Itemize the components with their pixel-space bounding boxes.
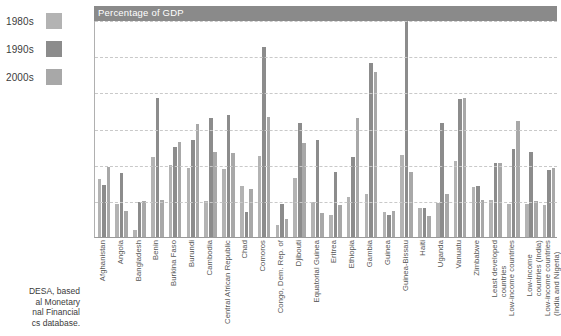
bar (173, 147, 177, 237)
bar (543, 205, 547, 237)
x-axis-labels: AfghanistanAngolaBangladeshBeninBurkina … (94, 240, 557, 336)
bar (440, 123, 444, 237)
chart-title: Percentage of GDP (98, 7, 184, 18)
x-tick-label: Eritrea (330, 240, 339, 263)
bar (445, 194, 449, 237)
bar (245, 212, 249, 237)
bar (102, 185, 106, 237)
bar (258, 156, 262, 237)
x-tick-label: Low-income countries (India) (526, 240, 543, 296)
bar (196, 124, 200, 237)
x-tick-label: Uganda (437, 240, 446, 267)
gridline (95, 202, 557, 203)
x-tick-label: Gambia (366, 240, 375, 267)
x-tick-label: Djibouti (295, 240, 304, 266)
bar (222, 169, 226, 237)
bar (481, 200, 485, 237)
legend-swatch-1990s (46, 41, 62, 57)
bar (204, 201, 208, 237)
bar (507, 204, 511, 237)
bar (334, 172, 338, 237)
bar (387, 215, 391, 237)
bar (280, 204, 284, 237)
x-tick-label: Comoros (259, 240, 268, 272)
source-line: nal Financial (0, 307, 80, 318)
bar (427, 216, 431, 237)
bar (329, 215, 333, 237)
bar (374, 72, 378, 237)
bar (249, 189, 253, 237)
chart-legend: 1980s 1990s 2000s (6, 10, 68, 94)
x-tick-label: Cambodia (206, 240, 215, 275)
x-tick-label: Benin (152, 240, 161, 260)
bar (423, 208, 427, 237)
legend-label: 1980s (6, 16, 42, 27)
bar (293, 178, 297, 237)
bar (392, 211, 396, 237)
x-tick-label: Afghanistan (99, 240, 108, 281)
bar (547, 170, 551, 237)
bar (267, 117, 271, 237)
gridline (95, 21, 557, 22)
bar (320, 213, 324, 237)
x-tick-label: Chad (241, 240, 250, 259)
bar (489, 200, 493, 237)
bar (400, 155, 404, 237)
bar (494, 163, 498, 238)
x-tick-label: Equatorial Guinea (313, 240, 322, 303)
bar (369, 63, 373, 237)
bar (383, 212, 387, 237)
bar (213, 152, 217, 237)
bar (347, 197, 351, 237)
bar (191, 140, 195, 237)
bar (458, 99, 462, 237)
source-line: DESA, based (0, 286, 80, 297)
bar (285, 219, 289, 237)
bar (138, 202, 142, 237)
bar (156, 98, 160, 237)
bar (124, 211, 128, 237)
y-tick-mark (94, 57, 95, 58)
bar (160, 200, 164, 237)
bar (351, 157, 355, 237)
x-tick-label: Central African Republic (224, 240, 233, 324)
source-line: cs database. (0, 318, 80, 329)
y-tick-mark (94, 166, 95, 167)
bar (169, 165, 173, 237)
bar (227, 115, 231, 237)
source-note: DESA, based al Monetary nal Financial cs… (0, 286, 80, 328)
y-tick-mark (94, 130, 95, 131)
bar (525, 204, 529, 237)
bar (316, 140, 320, 237)
source-line: al Monetary (0, 297, 80, 308)
gridline (95, 93, 557, 94)
gridline (95, 57, 557, 58)
bar (365, 194, 369, 237)
x-tick-label: Burkina Faso (170, 240, 179, 286)
x-tick-label: Low-income countries (India and Nigeria) (544, 240, 561, 316)
x-tick-label: Vanuatu (455, 240, 464, 268)
legend-item: 1980s (6, 10, 68, 32)
legend-item: 1990s (6, 38, 68, 60)
x-tick-label: Burundi (188, 240, 197, 267)
gridline (95, 130, 557, 131)
x-tick-label: Zimbabwe (473, 240, 482, 276)
bar (516, 121, 520, 237)
plot-area: 051015202530 (94, 21, 557, 238)
bar (98, 179, 102, 237)
x-tick-label: Angola (117, 240, 126, 264)
x-tick-label: Least developed countries (491, 240, 508, 297)
bar (463, 98, 467, 237)
legend-swatch-2000s (46, 69, 62, 85)
bar (120, 173, 124, 237)
bar (454, 161, 458, 237)
bar-chart: Percentage of GDP 051015202530 (88, 6, 557, 238)
bar (302, 143, 306, 237)
bar (356, 118, 360, 237)
bar (262, 47, 266, 237)
y-tick-mark (94, 21, 95, 22)
bar (209, 118, 213, 237)
gridline (95, 166, 557, 167)
legend-label: 2000s (6, 72, 42, 83)
y-tick-mark (94, 202, 95, 203)
